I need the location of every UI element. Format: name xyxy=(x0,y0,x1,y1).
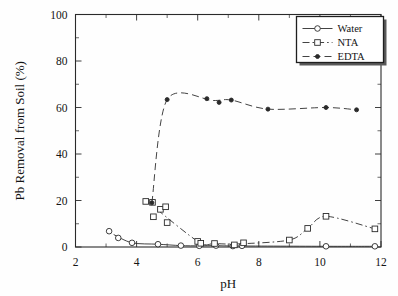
data-point-nta xyxy=(164,220,170,226)
data-point-nta xyxy=(372,226,378,232)
data-point-nta xyxy=(163,204,169,210)
filled-circle-marker-icon xyxy=(316,55,320,59)
data-point-nta xyxy=(198,240,204,246)
data-point-edta xyxy=(150,201,154,205)
y-tick-label: 60 xyxy=(56,102,68,114)
data-point-water xyxy=(372,244,378,250)
circle-marker-icon xyxy=(315,26,321,32)
data-point-nta xyxy=(212,241,218,247)
chart-legend[interactable]: WaterNTAEDTA xyxy=(297,17,387,66)
y-axis-title: Pb Removal from Soil (%) xyxy=(12,61,27,200)
data-point-edta xyxy=(229,98,233,102)
data-point-water xyxy=(178,243,184,249)
data-point-edta xyxy=(217,100,221,104)
x-tick-label: 12 xyxy=(375,256,387,268)
legend-label-edta: EDTA xyxy=(338,51,366,62)
y-tick-label: 100 xyxy=(50,9,68,21)
legend-label-nta: NTA xyxy=(338,37,359,48)
data-point-edta xyxy=(205,97,209,101)
data-point-edta xyxy=(266,107,270,111)
x-tick-label: 8 xyxy=(256,256,262,268)
data-point-nta xyxy=(241,240,247,246)
data-point-nta xyxy=(323,214,329,220)
series-nta xyxy=(143,199,378,248)
data-series-layer xyxy=(106,93,377,249)
data-point-water xyxy=(106,228,112,234)
data-point-edta xyxy=(324,106,328,110)
data-point-water xyxy=(323,244,329,250)
x-tick-label: 2 xyxy=(73,256,79,268)
data-point-water xyxy=(129,240,135,246)
x-tick-label: 6 xyxy=(195,256,201,268)
data-point-nta xyxy=(232,242,238,248)
x-tick-label: 4 xyxy=(134,256,140,268)
data-point-nta xyxy=(305,226,311,232)
x-axis-title: pH xyxy=(220,276,236,291)
data-point-nta xyxy=(143,199,149,205)
scatter-plot-svg: 24681012020406080100pHPb Removal from So… xyxy=(0,0,398,296)
legend-label-water: Water xyxy=(338,23,363,34)
series-line-nta xyxy=(157,210,374,245)
data-point-edta xyxy=(355,108,359,112)
data-point-nta xyxy=(287,237,293,243)
chart-figure: 24681012020406080100pHPb Removal from So… xyxy=(0,0,398,296)
data-point-water xyxy=(115,235,121,241)
data-point-edta xyxy=(165,98,169,102)
y-tick-label: 20 xyxy=(56,195,68,207)
y-tick-label: 0 xyxy=(62,241,68,253)
data-point-nta xyxy=(151,214,157,220)
series-edta xyxy=(150,93,359,205)
x-tick-label: 10 xyxy=(314,256,326,268)
square-marker-icon xyxy=(315,40,321,46)
data-point-water xyxy=(155,241,161,247)
y-tick-label: 40 xyxy=(56,148,68,160)
y-tick-label: 80 xyxy=(56,55,68,67)
